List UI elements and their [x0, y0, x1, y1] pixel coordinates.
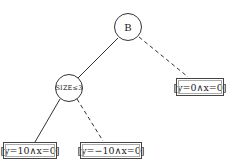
edge-size-left — [35, 99, 60, 142]
leaf-left-label: [y=10∧x=0] — [0, 145, 59, 156]
root-node-label: B — [124, 22, 131, 33]
edge-root-right-dashed — [139, 37, 188, 77]
leaf-mid-box: [y=−10∧x=0] — [80, 142, 142, 159]
size-condition-label: SIZE≤3 — [55, 84, 82, 92]
leaf-mid-label: [y=−10∧x=0] — [77, 145, 144, 156]
leaf-right-box: [y=0∧x=0] — [176, 78, 224, 96]
edge-size-mid-dashed — [77, 99, 103, 141]
size-condition-node: SIZE≤3 — [55, 74, 83, 102]
leaf-right-label: [y=0∧x=0] — [173, 82, 226, 93]
root-node-b: B — [114, 13, 142, 41]
leaf-left-box: [y=10∧x=0] — [3, 142, 57, 159]
edge-root-size — [78, 38, 118, 78]
